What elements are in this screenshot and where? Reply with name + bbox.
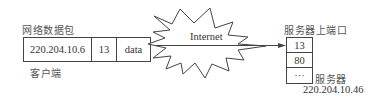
server-ports-title: 服务器上端口 [284, 22, 347, 37]
arrow-head-icon [278, 43, 286, 48]
server-port-13: 13 [287, 38, 312, 52]
server-ip: 220.204.10.46 [303, 84, 363, 95]
packet-field-port: 13 [92, 38, 116, 61]
packet-field-data: data [117, 38, 150, 61]
packet-field-ip: 220.204.10.6 [24, 38, 91, 61]
internet-label: Internet [190, 31, 223, 42]
server-port-more: ··· [287, 68, 312, 83]
packet-title: 网络数据包 [22, 22, 75, 37]
internet-cloud-icon [148, 8, 266, 78]
client-label: 客户端 [30, 65, 62, 80]
server-port-80: 80 [287, 53, 312, 67]
